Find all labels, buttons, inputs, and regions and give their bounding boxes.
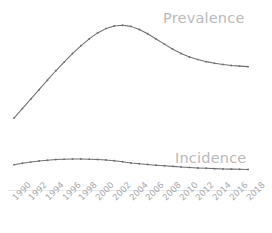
data-point — [30, 98, 32, 100]
data-point — [113, 160, 115, 162]
data-point — [38, 160, 40, 162]
data-point — [72, 53, 74, 55]
data-point — [55, 70, 57, 72]
data-point — [138, 29, 140, 31]
data-point — [222, 168, 224, 170]
data-point — [21, 108, 23, 110]
data-point — [105, 159, 107, 161]
data-point — [197, 59, 199, 61]
data-point — [230, 168, 232, 170]
data-point — [222, 63, 224, 65]
data-point — [189, 166, 191, 168]
data-point — [155, 164, 157, 166]
data-point — [88, 158, 90, 160]
data-point — [63, 61, 65, 63]
data-point — [72, 158, 74, 160]
data-point — [147, 164, 149, 166]
data-point — [138, 163, 140, 165]
data-point — [13, 164, 15, 166]
data-point — [130, 25, 132, 27]
data-point — [163, 43, 165, 45]
data-point — [197, 167, 199, 169]
data-point — [46, 159, 48, 161]
data-point — [163, 165, 165, 167]
data-point — [172, 48, 174, 50]
data-point — [38, 89, 40, 91]
data-point — [239, 168, 241, 170]
data-point — [80, 45, 82, 47]
data-point — [180, 53, 182, 55]
data-point — [30, 161, 32, 163]
data-point — [214, 168, 216, 170]
data-point — [122, 161, 124, 163]
data-point — [46, 79, 48, 81]
data-point — [189, 56, 191, 58]
data-point — [97, 159, 99, 161]
data-point — [205, 61, 207, 63]
data-point — [21, 162, 23, 164]
data-point — [105, 28, 107, 30]
data-point — [247, 66, 249, 68]
data-point — [97, 32, 99, 34]
data-point — [63, 158, 65, 160]
series-markers-prevalence — [13, 24, 249, 119]
data-point — [80, 158, 82, 160]
data-point — [122, 24, 124, 26]
data-point — [55, 159, 57, 161]
data-point — [155, 38, 157, 40]
data-point — [13, 117, 15, 119]
line-chart-plot — [0, 0, 272, 233]
data-point — [205, 167, 207, 169]
data-point — [239, 65, 241, 67]
data-point — [113, 25, 115, 27]
data-point — [180, 166, 182, 168]
series-label-incidence: Incidence — [175, 150, 246, 166]
data-point — [247, 169, 249, 171]
series-line-prevalence — [14, 25, 248, 118]
series-label-prevalence: Prevalence — [163, 10, 245, 26]
chart-figure: Prevalence Incidence 1990199219941996199… — [0, 0, 272, 233]
data-point — [130, 162, 132, 164]
data-point — [147, 33, 149, 35]
data-point — [230, 64, 232, 66]
data-point — [172, 165, 174, 167]
data-point — [214, 62, 216, 64]
data-point — [88, 38, 90, 40]
